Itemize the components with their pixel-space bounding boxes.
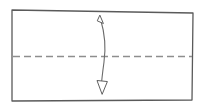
diagram-canvas [0, 0, 205, 110]
origami-fold-figure: Origami valley fold diagram [0, 0, 205, 110]
